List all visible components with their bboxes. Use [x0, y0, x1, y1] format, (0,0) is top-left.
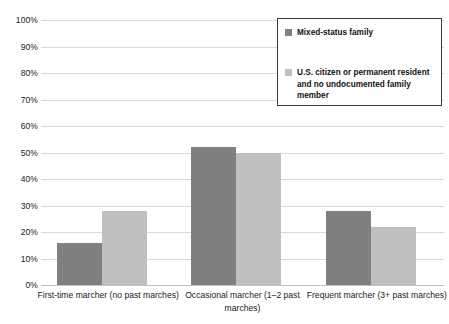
y-axis-tick-label: 60% — [4, 121, 38, 131]
bar — [326, 211, 371, 285]
y-axis-tick-label: 30% — [4, 201, 38, 211]
bar — [57, 243, 102, 285]
x-axis-category-labels: First-time marcher (no past marches)Occa… — [41, 289, 444, 323]
y-axis-tick-label: 40% — [4, 174, 38, 184]
y-axis-tick-label: 50% — [4, 148, 38, 158]
y-axis-tick-label: 20% — [4, 227, 38, 237]
bar — [371, 227, 416, 285]
x-axis-category-label: Frequent marcher (3+ past marches) — [301, 289, 449, 302]
y-axis-tick-label: 100% — [4, 15, 38, 25]
gridline — [41, 285, 444, 286]
bar-chart: 100%90%80%70%60%50%40%30%20%10%0% First-… — [0, 0, 449, 324]
legend-swatch-icon — [285, 69, 292, 76]
y-axis-tick-label: 90% — [4, 42, 38, 52]
x-axis-category-label: First-time marcher (no past marches) — [32, 289, 184, 302]
x-axis-category-label: Occasional marcher (1–2 past marches) — [167, 289, 319, 314]
legend-swatch-icon — [285, 29, 292, 36]
y-axis-labels: 100%90%80%70%60%50%40%30%20%10%0% — [0, 20, 38, 285]
bar-group — [41, 20, 175, 285]
y-axis-tick-label: 70% — [4, 95, 38, 105]
chart-legend: Mixed-status family U.S. citizen or perm… — [277, 18, 442, 106]
y-axis-tick-label: 10% — [4, 254, 38, 264]
legend-item: Mixed-status family — [285, 27, 436, 39]
y-axis-tick-label: 80% — [4, 68, 38, 78]
legend-item-label: Mixed-status family — [297, 27, 373, 39]
bar — [236, 153, 281, 286]
legend-item-label: U.S. citizen or permanent resident and n… — [297, 67, 436, 102]
legend-item: U.S. citizen or permanent resident and n… — [285, 67, 436, 102]
bar — [191, 147, 236, 285]
bar — [102, 211, 147, 285]
